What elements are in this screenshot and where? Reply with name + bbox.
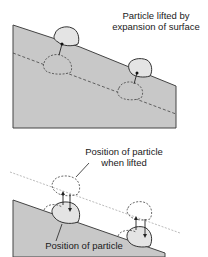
label-line: when lifted [74,157,174,168]
particle-lifted-2 [129,59,152,77]
label-position-when-lifted: Position of particle when lifted [74,146,174,168]
label-line: Particle lifted by [106,10,206,21]
label-line: Position of particle [34,240,134,251]
particle-when-lifted-2 [127,202,152,220]
label-position-settled: Position of particle [34,240,134,251]
label-line: Position of particle [74,146,174,157]
ground-slope-top [13,25,176,128]
particle-when-lifted-1 [52,176,80,196]
label-line: expansion of surface [106,21,206,32]
label-particle-lifted: Particle lifted by expansion of surface [106,10,206,32]
top-panel [13,25,176,128]
soil-creep-diagram [0,0,208,257]
